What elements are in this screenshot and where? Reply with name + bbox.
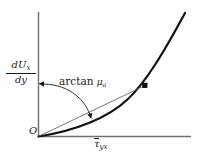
x-axis-label: τyx <box>94 139 107 151</box>
y-axis-label: dUx dy <box>6 60 36 85</box>
secant-line <box>39 86 146 137</box>
y-axis-label-numerator: dUx <box>6 60 36 74</box>
rheogram-figure: dUx dy arctan μa τyx O <box>0 0 206 164</box>
arctan-word: arctan <box>59 75 93 87</box>
arctan-angle-arc <box>44 84 91 118</box>
mu-symbol: μa <box>97 77 107 87</box>
tau-subscript: yx <box>100 143 108 151</box>
operating-point-marker <box>142 83 147 88</box>
y-axis-label-denominator: dy <box>6 74 36 85</box>
tau-symbol: τ <box>94 139 100 149</box>
arctan-annotation-label: arctan μa <box>59 76 107 88</box>
origin-label: O <box>29 126 37 136</box>
mu-subscript: a <box>103 81 107 89</box>
y-axis-numerator-subscript: x <box>26 64 30 72</box>
